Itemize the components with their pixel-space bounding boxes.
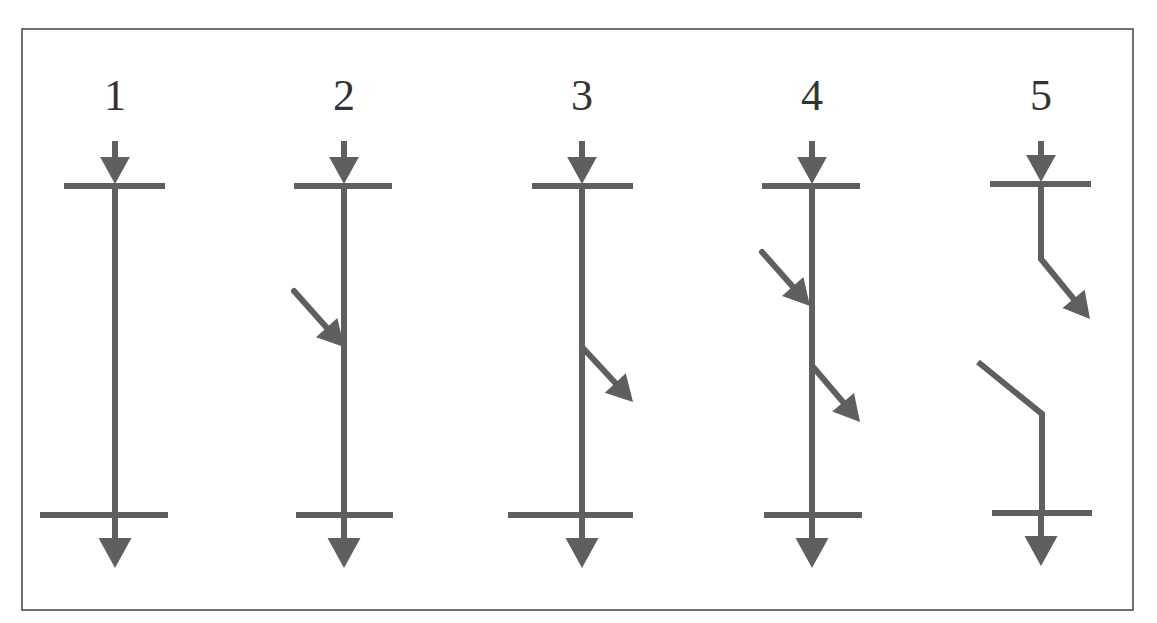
input-arrow-head [797,157,827,184]
case-label: 3 [571,71,593,120]
input-arrow-head [1026,155,1056,182]
output-arrow-head [99,538,132,568]
case-label: 4 [801,71,823,120]
output-arrow-head [328,538,361,568]
inflow-arrow-shaft [294,291,330,331]
case-4: 4 [762,71,862,568]
case-1: 1 [40,71,168,568]
outflow-arrow-shaft [582,347,619,387]
cases-group: 12345 [40,71,1092,568]
case-label: 5 [1030,71,1052,120]
input-arrow-head [329,157,359,184]
case-2: 2 [294,71,393,568]
output-arrow-head [566,538,599,568]
case-5: 5 [978,71,1092,566]
conductor-line [978,362,1042,513]
inflow-arrow-shaft [762,252,796,290]
switching-diagram: 12345 [0,0,1157,623]
input-arrow-head [567,157,597,184]
outflow-arrow-shaft [1041,259,1077,303]
case-3: 3 [508,71,633,568]
case-label: 1 [104,71,126,120]
output-arrow-head [1025,536,1058,566]
case-label: 2 [333,71,355,120]
output-arrow-head [796,538,829,568]
input-arrow-head [100,157,130,184]
outflow-arrow-shaft [814,368,847,406]
